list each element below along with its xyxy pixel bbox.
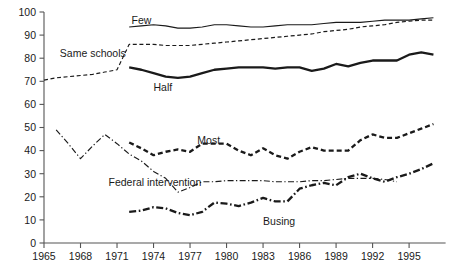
x-tick-label: 1989	[324, 250, 348, 262]
y-tick-label: 70	[24, 75, 36, 87]
series-line-most	[129, 124, 433, 159]
y-tick-label: 80	[24, 52, 36, 64]
line-chart: 0102030405060708090100 19651968197119741…	[0, 0, 450, 275]
series-line-federal-intervention	[56, 130, 397, 192]
series-label-half: Half	[154, 81, 173, 93]
y-tick-label: 20	[24, 191, 36, 203]
series-labels: FewSame schoolsHalfMostFederal intervent…	[60, 14, 296, 227]
series-line-half	[129, 52, 433, 77]
x-tick-label: 1995	[397, 250, 421, 262]
x-tick-label: 1968	[69, 250, 93, 262]
y-tick-label: 10	[24, 214, 36, 226]
series-label-same-schools: Same schools	[60, 47, 126, 59]
y-tick-label: 90	[24, 29, 36, 41]
year-axis: 1965196819711974197719801983198619891992…	[32, 243, 445, 262]
y-tick-label: 30	[24, 168, 36, 180]
y-tick-label: 60	[24, 98, 36, 110]
y-tick-label: 0	[30, 237, 36, 249]
y-tick-label: 40	[24, 144, 36, 156]
series-label-federal-intervention: Federal intervention	[109, 176, 202, 188]
y-tick-label: 50	[24, 121, 36, 133]
x-tick-label: 1971	[105, 250, 129, 262]
y-tick-label: 100	[18, 6, 36, 18]
x-tick-label: 1977	[178, 250, 202, 262]
x-tick-label: 1965	[32, 250, 56, 262]
x-tick-label: 1992	[361, 250, 385, 262]
chart-container: 0102030405060708090100 19651968197119741…	[0, 0, 450, 275]
series-label-busing: Busing	[263, 215, 295, 227]
series-label-few: Few	[132, 14, 152, 26]
series-label-most: Most	[197, 134, 220, 146]
x-tick-label: 1983	[251, 250, 275, 262]
x-tick-label: 1974	[142, 250, 166, 262]
x-tick-label: 1986	[288, 250, 312, 262]
series-line-few	[129, 18, 433, 28]
x-tick-label: 1980	[215, 250, 239, 262]
percent-axis: 0102030405060708090100	[18, 6, 44, 249]
